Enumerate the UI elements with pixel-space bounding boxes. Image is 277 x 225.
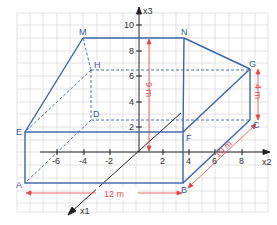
x3-tick: 4 — [129, 97, 134, 107]
x2-tick: -4 — [79, 156, 87, 166]
grid — [17, 13, 268, 212]
x2-tick: 2 — [160, 156, 165, 166]
length-dimension: 12 m — [104, 189, 124, 199]
point-label-a: A — [16, 180, 22, 190]
point-label-d: D — [93, 109, 100, 119]
height-high-dimension: 9 m — [144, 82, 154, 97]
height-low-dimension: 4 m — [253, 84, 263, 99]
point-label-e: E — [16, 127, 22, 137]
x2-tick: -6 — [52, 156, 60, 166]
dimension-lines — [26, 39, 260, 195]
house-diagram: 12 m 10 m 9 m 4 m -6 -4 -2 2 4 6 8 2 4 6… — [0, 0, 277, 225]
point-label-m: M — [79, 27, 87, 37]
x3-tick: 8 — [129, 46, 134, 56]
x2-axis-label: x2 — [262, 157, 272, 167]
point-label-b: B — [181, 185, 187, 195]
point-label-n: N — [181, 27, 188, 37]
x3-arrow-icon — [137, 7, 142, 14]
x2-tick: -2 — [105, 156, 113, 166]
point-label-h: H — [94, 60, 101, 70]
x3-axis-label: x3 — [143, 6, 153, 16]
x1-axis-label: x1 — [80, 206, 90, 216]
point-label-g: G — [249, 59, 256, 69]
x2-tick: 6 — [212, 156, 217, 166]
x3-tick: 6 — [129, 71, 134, 81]
x3-tick: 2 — [129, 122, 134, 132]
x2-arrow-icon — [263, 150, 270, 155]
x3-tick: 10 — [124, 20, 134, 30]
x2-tick: 4 — [186, 156, 191, 166]
point-label-c: C — [253, 120, 260, 130]
x2-tick: 8 — [239, 156, 244, 166]
point-label-f: F — [186, 133, 192, 143]
